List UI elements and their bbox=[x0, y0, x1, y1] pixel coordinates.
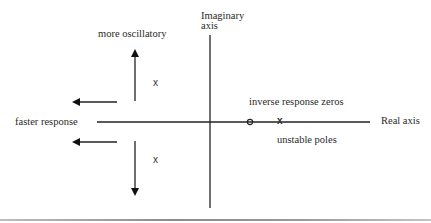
real-axis-label: Real axis bbox=[381, 115, 420, 126]
imaginary-axis-label-line2: axis bbox=[201, 21, 244, 31]
bottom-divider bbox=[0, 219, 431, 221]
diagram-graphics bbox=[0, 0, 431, 223]
more-oscillatory-label: more oscillatory bbox=[98, 28, 167, 39]
upper-pole-marker: x bbox=[153, 78, 158, 88]
pole-zero-diagram: Imaginary axis Real axis more oscillator… bbox=[0, 0, 431, 223]
rhp-pole-marker: x bbox=[277, 116, 283, 126]
lower-pole-marker: x bbox=[153, 155, 158, 165]
imaginary-axis-label: Imaginary axis bbox=[201, 11, 244, 31]
inverse-response-zeros-label: inverse response zeros bbox=[249, 96, 343, 107]
unstable-poles-label: unstable poles bbox=[277, 134, 337, 145]
faster-response-label: faster response bbox=[15, 116, 78, 127]
